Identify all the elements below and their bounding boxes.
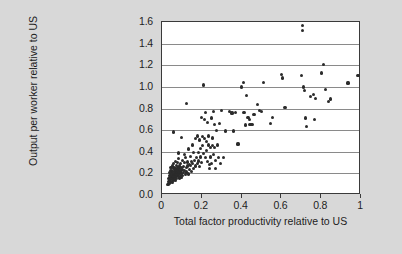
scatter-point	[214, 159, 217, 162]
scatter-point	[180, 136, 183, 139]
y-axis-tick-label: 0.0	[139, 188, 153, 200]
scatter-points-layer	[162, 22, 359, 193]
x-axis-title: Total factor productivity relative to US	[161, 215, 360, 227]
scatter-point	[201, 144, 204, 147]
scatter-point	[327, 100, 330, 103]
scatter-point	[197, 151, 200, 154]
scatter-point	[271, 116, 274, 119]
scatter-point	[198, 138, 201, 141]
y-axis-tick-label: 1.4	[139, 37, 153, 49]
scatter-point	[283, 106, 286, 109]
figure-container: Output per worker relative to US 0.00.20…	[0, 0, 402, 254]
scatter-point	[262, 81, 265, 84]
scatter-point	[184, 156, 187, 159]
y-axis-title: Output per worker relative to US	[27, 6, 39, 176]
x-axis-tick-mark	[360, 194, 361, 198]
plot-area	[161, 21, 360, 194]
scatter-point	[211, 136, 214, 139]
y-axis-tick-label: 1.0	[139, 80, 153, 92]
scatter-point	[210, 116, 213, 119]
scatter-point	[177, 157, 180, 160]
scatter-point	[199, 155, 202, 158]
scatter-point	[322, 63, 325, 66]
scatter-point	[217, 156, 220, 159]
scatter-point	[209, 155, 212, 158]
scatter-point	[281, 76, 284, 79]
scatter-point	[242, 81, 245, 84]
y-axis-tick-label: 0.6	[139, 123, 153, 135]
scatter-point	[300, 74, 303, 77]
scatter-point	[191, 143, 194, 146]
scatter-point	[304, 116, 307, 119]
scatter-point	[260, 110, 263, 113]
scatter-point	[280, 73, 283, 76]
scatter-point	[189, 155, 192, 158]
scatter-point	[208, 167, 211, 170]
scatter-point	[212, 110, 215, 113]
x-axis-tick-labels: 00.20.40.60.81	[161, 199, 360, 213]
scatter-point	[218, 122, 221, 125]
scatter-point	[313, 118, 316, 121]
scatter-point	[199, 147, 202, 150]
x-axis-tick-label: 0	[158, 199, 164, 211]
scatter-point	[314, 97, 317, 100]
scatter-point	[192, 151, 195, 154]
scatter-point	[207, 134, 210, 137]
y-axis-tick-label: 1.2	[139, 58, 153, 70]
scatter-point	[245, 94, 248, 97]
scatter-point	[269, 122, 272, 125]
scatter-point	[232, 129, 235, 132]
scatter-point	[236, 142, 239, 145]
scatter-point	[185, 102, 188, 105]
scatter-point	[187, 172, 190, 175]
y-axis-tick-label: 0.8	[139, 102, 153, 114]
scatter-point	[198, 165, 201, 168]
scatter-point	[213, 123, 216, 126]
scatter-point	[234, 111, 237, 114]
x-axis-tick-label: 0.2	[194, 199, 208, 211]
scatter-point	[301, 24, 304, 27]
x-axis-tick-label: 1	[357, 199, 363, 211]
scatter-point	[202, 83, 205, 86]
scatter-point	[250, 123, 253, 126]
scatter-point	[187, 147, 190, 150]
scatter-point	[216, 143, 219, 146]
y-axis-tick-labels: 0.00.20.40.60.81.01.21.41.6	[121, 21, 157, 194]
scatter-point	[324, 88, 327, 91]
scatter-point	[215, 129, 218, 132]
scatter-point	[329, 97, 332, 100]
scatter-point	[177, 151, 180, 154]
scatter-point	[356, 74, 359, 77]
scatter-point	[256, 103, 259, 106]
x-axis-tick-mark	[280, 194, 281, 198]
scatter-point	[312, 93, 315, 96]
scatter-point	[190, 170, 193, 173]
scatter-point	[220, 109, 223, 112]
y-axis-tick-label: 1.6	[139, 15, 153, 27]
scatter-point	[172, 130, 175, 133]
x-axis-tick-mark	[201, 194, 202, 198]
scatter-point	[303, 89, 306, 92]
scatter-point	[301, 29, 304, 32]
scatter-point	[212, 153, 215, 156]
scatter-point	[242, 111, 245, 114]
scatter-point	[200, 161, 203, 164]
scatter-point	[222, 156, 225, 159]
x-axis-tick-mark	[320, 194, 321, 198]
y-axis-tick-label: 0.4	[139, 145, 153, 157]
scatter-point	[204, 156, 207, 159]
scatter-point	[224, 129, 227, 132]
scatter-point	[214, 167, 217, 170]
scatter-point	[252, 113, 255, 116]
x-axis-tick-mark	[241, 194, 242, 198]
x-axis-tick-mark	[161, 194, 162, 198]
scatter-point	[248, 118, 251, 121]
x-axis-tick-label: 0.6	[273, 199, 287, 211]
scatter-point	[196, 134, 199, 137]
scatter-point	[219, 162, 222, 165]
scatter-point	[244, 123, 247, 126]
scatter-point	[204, 111, 207, 114]
scatter-point	[210, 162, 213, 165]
scatter-point	[320, 71, 323, 74]
x-axis-tick-label: 0.4	[234, 199, 248, 211]
